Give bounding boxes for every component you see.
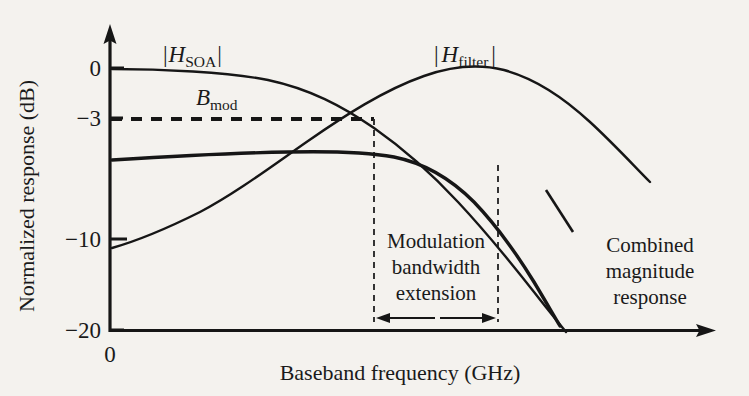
combined-response-leader-line: [546, 190, 573, 232]
label-h-filter-bar-close: |: [491, 42, 496, 67]
arrow-left-head: [376, 313, 390, 323]
y-axis-title: Normalized response (dB): [14, 80, 39, 312]
label-h-filter-bar-open: |: [434, 42, 439, 67]
annotation-bw-line1: Modulation: [387, 229, 485, 253]
x-tick-label-0: 0: [104, 342, 116, 367]
label-bmod-sub: mod: [210, 96, 238, 113]
curve-combined-response: [112, 152, 560, 326]
annotation-combined-line2: magnitude: [606, 259, 695, 283]
annotation-bw-line2: bandwidth: [392, 255, 481, 279]
x-axis-title: Baseband frequency (GHz): [280, 360, 521, 385]
label-h-soa-bar-close: |: [217, 42, 222, 67]
figure-canvas: 0 −3 −10 −20 0 Normalized response (dB) …: [0, 0, 749, 396]
annotation-combined-response: Combined magnitude response: [606, 233, 695, 309]
arrow-right-head: [482, 313, 496, 323]
label-h-soa-sub: SOA: [185, 53, 217, 70]
label-h-filter: |Hfilter|: [434, 42, 496, 70]
annotation-combined-line3: response: [613, 285, 686, 309]
chart-svg: 0 −3 −10 −20 0 Normalized response (dB) …: [0, 0, 749, 396]
y-tick-label-0: 0: [90, 56, 102, 81]
y-tick-label-minus10: −10: [65, 227, 101, 252]
bandwidth-extension-arrows: [376, 313, 496, 323]
label-h-soa-bar-open: |: [163, 42, 168, 67]
label-bmod: Bmod: [196, 85, 238, 113]
label-bmod-main: B: [196, 85, 210, 110]
y-tick-label-minus3: −3: [77, 106, 101, 131]
annotation-bw-line3: extension: [396, 281, 477, 305]
label-h-filter-main: H: [441, 42, 460, 67]
label-h-filter-sub: filter: [458, 53, 489, 70]
label-h-soa: |HSOA|: [163, 42, 222, 70]
y-tick-label-minus20: −20: [65, 318, 101, 343]
curve-h-filter: [112, 67, 650, 248]
annotation-bandwidth-extension: Modulation bandwidth extension: [387, 229, 485, 305]
annotation-combined-line1: Combined: [606, 233, 694, 257]
tick-labels-group: 0 −3 −10 −20 0: [65, 56, 116, 367]
label-h-soa-main: H: [168, 42, 187, 67]
